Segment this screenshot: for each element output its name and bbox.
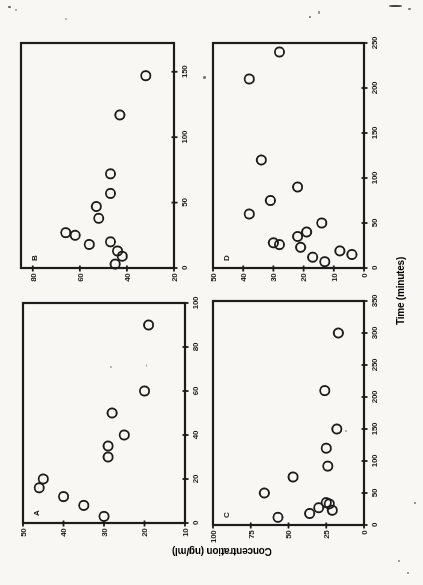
data-point — [144, 320, 153, 329]
x-tick-label: 250 — [370, 36, 379, 49]
data-point — [79, 501, 88, 510]
data-point — [317, 218, 326, 227]
x-tick-label: 200 — [370, 390, 379, 403]
scan-speck — [15, 9, 17, 11]
data-point — [320, 386, 329, 395]
x-tick-label: 150 — [370, 126, 379, 139]
figure-canvas: 0204060801001020304050A05010015020406080… — [0, 0, 423, 585]
data-point — [245, 74, 254, 83]
y-tick-label: 50 — [19, 528, 28, 537]
data-point — [323, 462, 332, 471]
x-tick-label: 0 — [180, 265, 189, 270]
scan-speck — [65, 18, 67, 20]
plot-panel-B: 05010015020406080B — [21, 43, 189, 282]
y-tick-label: 20 — [140, 528, 149, 537]
y-tick-label: 50 — [284, 530, 293, 539]
data-point — [115, 110, 124, 119]
data-point — [120, 430, 129, 439]
x-tick-label: 0 — [370, 265, 379, 270]
x-tick-label: 100 — [180, 130, 189, 143]
data-point — [322, 444, 331, 453]
y-tick-label: 10 — [330, 273, 339, 282]
x-tick-label: 250 — [370, 358, 379, 371]
x-tick-label: 100 — [370, 171, 379, 184]
data-point — [71, 231, 80, 240]
plot-panel-D: 05010015020025001020304050D — [209, 36, 379, 282]
x-tick-label: 50 — [370, 488, 379, 497]
x-tick-label: 50 — [180, 198, 189, 207]
data-point — [106, 169, 115, 178]
data-point — [140, 386, 149, 395]
y-tick-label: 40 — [59, 528, 68, 537]
data-point — [260, 488, 269, 497]
data-point — [99, 512, 108, 521]
data-point — [335, 246, 344, 255]
scan-speck — [309, 16, 311, 18]
y-tick-label: 0 — [360, 530, 369, 535]
y-tick-label: 60 — [76, 273, 85, 282]
y-tick-label: 50 — [209, 273, 218, 282]
data-point — [332, 424, 341, 433]
x-tick-label: 0 — [370, 522, 379, 527]
x-axis-title: Time (minutes) — [395, 257, 406, 325]
y-tick-label: 30 — [269, 273, 278, 282]
data-point — [293, 232, 302, 241]
data-point — [293, 182, 302, 191]
scan-speck — [398, 560, 400, 562]
x-tick-label: 80 — [191, 342, 200, 351]
x-tick-label: 350 — [370, 294, 379, 307]
y-tick-label: 40 — [239, 273, 248, 282]
scan-speck — [407, 572, 409, 574]
data-point — [85, 240, 94, 249]
x-tick-label: 150 — [370, 422, 379, 435]
y-tick-label: 0 — [360, 273, 369, 278]
x-tick-label: 50 — [370, 218, 379, 227]
x-tick-label: 100 — [370, 454, 379, 467]
data-point — [334, 328, 343, 337]
scan-speck — [414, 502, 416, 504]
y-tick-label: 40 — [123, 273, 132, 282]
data-point — [257, 155, 266, 164]
data-point — [273, 513, 282, 522]
x-tick-label: 150 — [180, 65, 189, 78]
data-point — [275, 47, 284, 56]
data-point — [106, 189, 115, 198]
data-point — [39, 474, 48, 483]
y-tick-label: 80 — [29, 273, 38, 282]
panel-label-C: C — [222, 512, 231, 518]
y-axis-title: Concentration (ng/ml) — [172, 546, 272, 557]
plot-box — [213, 43, 364, 268]
data-point — [92, 202, 101, 211]
scan-speck — [389, 5, 402, 7]
data-point — [61, 228, 70, 237]
data-point — [266, 196, 275, 205]
y-tick-label: 10 — [181, 528, 190, 537]
y-tick-label: 20 — [299, 273, 308, 282]
y-tick-label: 25 — [322, 530, 331, 539]
data-point — [296, 243, 305, 252]
panel-label-A: A — [32, 510, 41, 516]
scan-speck — [408, 8, 411, 10]
plot-box — [213, 301, 364, 525]
scan-speck — [203, 76, 206, 79]
data-point — [245, 209, 254, 218]
y-tick-label: 30 — [100, 528, 109, 537]
data-point — [103, 452, 112, 461]
x-tick-label: 20 — [191, 474, 200, 483]
data-point — [275, 240, 284, 249]
data-point — [308, 253, 317, 262]
y-tick-label: 75 — [247, 530, 256, 539]
data-point — [347, 250, 356, 259]
plot-panel-A: 0204060801001020304050A — [19, 296, 200, 537]
x-tick-label: 100 — [191, 296, 200, 309]
scanned-page: 0204060801001020304050A05010015020406080… — [0, 0, 423, 585]
data-point — [269, 238, 278, 247]
data-point — [320, 257, 329, 266]
data-point — [305, 509, 314, 518]
data-point — [108, 408, 117, 417]
scan-speck — [110, 366, 112, 368]
x-tick-label: 60 — [191, 386, 200, 395]
data-point — [35, 483, 44, 492]
plot-panel-C: 0501001502002503003500255075100C — [209, 294, 379, 543]
x-tick-label: 40 — [191, 430, 200, 439]
